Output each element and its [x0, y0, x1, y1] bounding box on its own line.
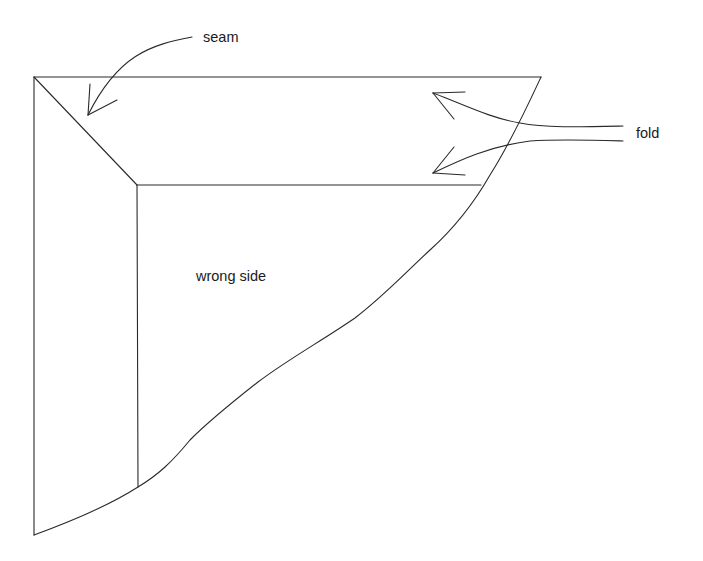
fold-arrow-upper	[433, 92, 623, 127]
hem-corner-diagram: seam fold wrong side	[0, 0, 703, 561]
raw-edge-curve	[34, 77, 541, 535]
miter-seam-line	[34, 77, 137, 185]
fold-label: fold	[636, 125, 659, 141]
wrong-side-label: wrong side	[195, 268, 266, 284]
seam-arrow	[88, 37, 192, 115]
fold-arrow-lower	[433, 140, 623, 175]
inner-fold-left	[137, 185, 138, 487]
seam-label: seam	[203, 29, 238, 45]
